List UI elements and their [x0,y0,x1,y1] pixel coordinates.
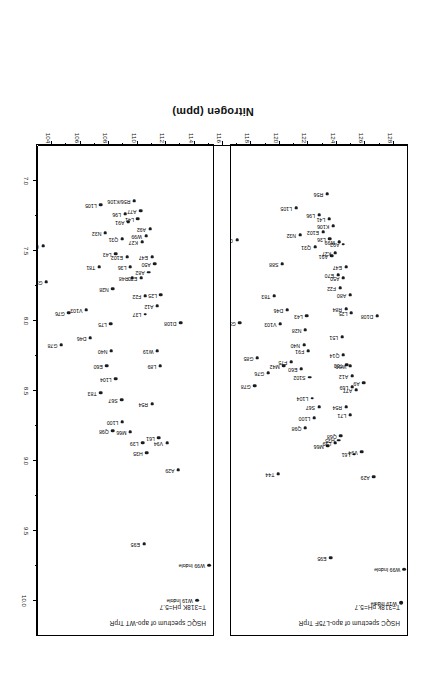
peak-e70 [140,277,143,280]
nitrogen-minor-tick [293,143,294,146]
peak-g52 [238,321,241,324]
peak-t44 [277,473,280,476]
peak-g85 [256,356,259,359]
peak-w99 [144,235,147,238]
peak-label-a29: A29 [165,467,174,472]
peak-a50 [342,277,345,280]
peak-label-v103: V103 [70,308,82,313]
proton-minor-tick [35,355,38,356]
peak-label-k106: K106 [317,224,329,229]
nitrogen-minor-tick [379,143,380,146]
peak-a92 [342,243,345,246]
peak-label-w99: W99 [131,233,142,238]
nitrogen-axis-title: Nitrogen (ppm) [0,106,426,118]
peak-label-w19-indole: W19 Indole [167,597,193,602]
peak-a12 [156,305,159,308]
peak-label-t44: T44 [265,471,274,476]
peak-label-w19: W19 [143,348,154,353]
proton-tick-label: 10.0 [21,595,28,607]
peak-w19 [156,349,159,352]
peak-l89 [159,365,162,368]
peak-e47 [150,256,153,259]
peak-label-l61: L61 [146,435,155,440]
peak-label-q98: Q98 [99,428,109,433]
peak-label-n28: N28 [292,327,302,332]
nitrogen-minor-tick [350,143,351,146]
peak-f91 [306,349,309,352]
nitrogen-minor-tick [66,143,67,146]
proton-tick-label: 9.5 [23,527,30,536]
peak-label-g52: G52 [230,320,236,325]
peak-a12 [350,375,353,378]
peak-label-g78: G78 [48,343,58,348]
peak-a77 [355,389,358,392]
peak-l96 [123,212,126,215]
peak-label-a12: A12 [339,373,348,378]
peak-h35 [337,439,340,442]
peak-s102 [308,376,311,379]
peak-e47 [344,265,347,268]
proton-tick [33,180,38,181]
peak-g76 [267,372,270,375]
peak-g78 [60,344,63,347]
peak-label-w19: W19 [335,364,346,369]
peak-label-a29: A29 [361,474,370,479]
peak-e102 [321,230,324,233]
peak-label-f75: F75 [278,359,287,364]
peak-l104 [311,397,314,400]
peak-d108 [179,321,182,324]
peak-l104 [114,377,117,380]
peak-label-n32: N32 [92,231,102,236]
peak-label-r54: R54 [139,401,149,406]
peak-label-s67: S67 [108,397,117,402]
nitrogen-tick-label: 126 [358,133,365,143]
peak-label-e102: E102 [111,254,123,259]
proton-axis: 7.07.58.08.59.09.510.0 [2,146,38,636]
peak-l41 [327,218,330,221]
peak-w99-indole [402,568,406,571]
peak-a77 [139,209,142,212]
peak-t83 [273,295,276,298]
peak-label-d108: D108 [361,313,373,318]
proton-minor-tick [35,565,38,566]
peak-l51 [340,335,343,338]
peak-w19-indole [399,601,403,604]
peak-label-q68: Q68 [327,434,337,439]
proton-tick [33,320,38,321]
nitrogen-minor-tick [123,143,124,146]
peak-f75 [290,361,293,364]
nitrogen-tick-label: 118 [244,133,251,143]
peak-label-l104: L104 [297,396,309,401]
peak-a29 [372,475,375,478]
peak-s67 [120,398,123,401]
peak-label-g78: G78 [241,383,251,388]
peak-label-f22: F22 [132,294,141,299]
peak-label-d108: D108 [164,320,176,325]
peak-l71 [348,414,351,417]
proton-tick [33,600,38,601]
proton-tick-label: 7.0 [23,177,30,186]
proton-tick-label: 8.0 [23,317,30,326]
peak-label-a77: A77 [127,208,136,213]
peak-g64 [41,244,44,247]
peak-label-r56-k106: R56/K106 [107,198,130,203]
peak-label-e60: E60 [94,364,103,369]
peak-label-l39: L39 [130,441,139,446]
peak-label-l75: L75 [98,322,107,327]
peak-w19-indole [195,598,199,601]
peak-label-h35: H35 [133,450,143,455]
peak-label-l105: L105 [280,205,292,210]
peak-label-q31: Q31 [301,245,311,250]
peak-label-n40: N40 [98,348,108,353]
peak-l43 [305,314,308,317]
peak-m66 [129,431,132,434]
panel-apo-wt-trpr: HSQC spectrum of apo-WT TrpR T=318K pH=5… [36,144,214,636]
peak-q68 [339,435,342,438]
peak-label-v94: V94 [154,441,163,446]
peak-l36 [129,265,132,268]
peak-label-q98: Q98 [292,425,302,430]
nitrogen-minor-tick [180,143,181,146]
peak-label-w19-indole: W19 Indole [371,600,397,605]
peak-label-e95: E95 [317,555,326,560]
peak-t81 [98,265,101,268]
